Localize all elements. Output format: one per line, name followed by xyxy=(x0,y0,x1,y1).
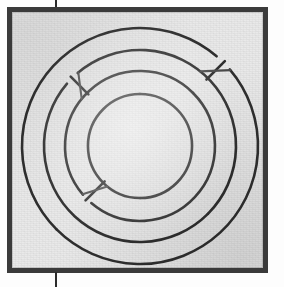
ring-third-arc-2 xyxy=(44,84,208,242)
crop-mark-bottom-icon xyxy=(55,272,57,287)
connector-spur-3 xyxy=(200,70,230,71)
connector-spur-1 xyxy=(83,186,108,194)
plate-frame xyxy=(7,7,268,273)
ink-layer xyxy=(22,28,258,264)
ring-inner-arc-b xyxy=(88,94,140,198)
ring-outer-arc-2 xyxy=(22,28,217,229)
ring-inner-arc-a xyxy=(140,94,192,198)
ring-outer-arc-1 xyxy=(57,69,258,264)
figure-root xyxy=(0,0,284,287)
spiral-coil-diagram xyxy=(12,12,263,268)
ring-second-arc-2 xyxy=(91,93,215,221)
